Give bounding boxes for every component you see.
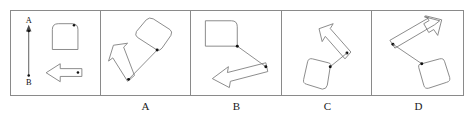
reference-label — [10, 96, 100, 116]
panel-strip: A B — [10, 10, 464, 96]
axis-label-b: B — [26, 78, 32, 87]
option-c-label: C — [282, 96, 373, 116]
ab-axis — [26, 25, 32, 77]
option-b-panel[interactable] — [191, 11, 282, 95]
option-d-panel[interactable] — [372, 11, 463, 95]
reference-rounded-square — [52, 24, 78, 49]
option-b-label: B — [191, 96, 282, 116]
option-d-diagram — [372, 11, 463, 95]
option-d-square — [419, 59, 450, 89]
option-a-square — [135, 18, 171, 50]
option-c-square — [303, 59, 330, 89]
option-b-square — [206, 21, 238, 46]
option-a-arrow — [108, 43, 134, 81]
reference-panel: A B — [11, 11, 101, 95]
option-d-arrow — [390, 16, 442, 48]
option-c-diagram — [282, 11, 372, 95]
option-b-arrow-dot — [265, 65, 268, 68]
option-a-label: A — [100, 96, 191, 116]
option-a-arrow-dot — [127, 78, 130, 81]
reference-diagram: A B — [11, 11, 100, 95]
option-c-panel[interactable] — [282, 11, 373, 95]
option-b-square-dot — [236, 45, 239, 48]
option-a-diagram — [101, 11, 191, 95]
option-c-square-dot — [329, 65, 332, 68]
option-a-square-dot — [155, 49, 158, 52]
option-d-square-dot — [421, 62, 424, 65]
axis-label-a: A — [26, 16, 32, 25]
option-b-diagram — [191, 11, 281, 95]
figure-root: A B — [0, 0, 474, 117]
option-b-arrow — [213, 63, 268, 87]
option-a-panel[interactable] — [101, 11, 192, 95]
option-label-row: A B C D — [10, 96, 464, 116]
reference-block-arrow — [46, 64, 81, 82]
option-d-label: D — [373, 96, 464, 116]
